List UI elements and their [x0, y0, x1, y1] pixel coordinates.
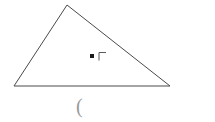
geometry-figure-svg [0, 0, 215, 122]
paren-mark: ( [76, 96, 83, 116]
figure-canvas: ( [0, 0, 215, 122]
figure-background [0, 0, 215, 122]
interior-point-dot [90, 54, 94, 58]
